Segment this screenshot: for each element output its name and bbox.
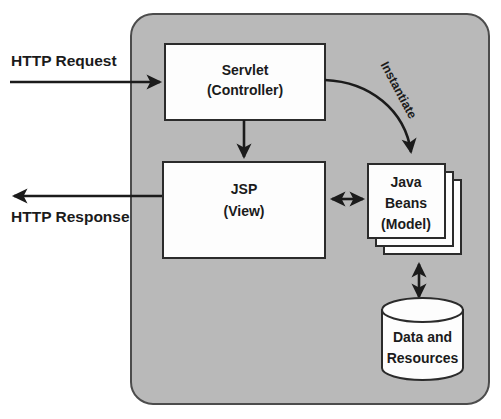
node-jsp-line-2: (View) — [224, 203, 265, 219]
node-data-resources-top — [382, 298, 463, 322]
node-servlet-line-2: (Controller) — [207, 82, 283, 98]
node-jsp-line-1: JSP — [231, 181, 257, 197]
node-java-beans-line-2: Beans — [385, 195, 427, 211]
node-java-beans-line-1: Java — [390, 174, 421, 190]
mvc-architecture-diagram: HTTP Request HTTP Response Servlet (Cont… — [0, 0, 501, 419]
node-data-resources-line-1: Data and — [393, 329, 452, 345]
node-servlet-line-1: Servlet — [222, 62, 269, 78]
node-data-resources-line-2: Resources — [387, 350, 459, 366]
label-http-request: HTTP Request — [11, 52, 117, 69]
diagram-canvas: HTTP Request HTTP Response Servlet (Cont… — [0, 0, 501, 419]
node-java-beans-line-3: (Model) — [381, 216, 431, 232]
label-http-response: HTTP Response — [11, 208, 130, 225]
